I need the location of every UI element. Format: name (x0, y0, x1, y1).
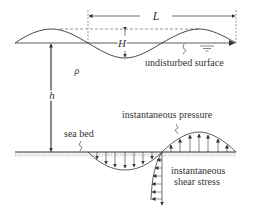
undisturbed-surface-leader (183, 44, 186, 54)
wavelength-label: L (152, 9, 160, 23)
sea-bed-leader (79, 141, 82, 151)
sea-bed (15, 152, 236, 157)
still-water-symbol (200, 46, 214, 51)
sea-bed-label: sea bed (64, 128, 94, 139)
density-label: ρ (74, 65, 80, 76)
instantaneous-shear-label-line1: instantaneous (171, 165, 226, 176)
pressure-leader (175, 124, 178, 134)
undisturbed-surface-label: undisturbed surface (145, 57, 224, 68)
wave-pressure-diagram: L H undisturbed surface ρ h sea bed (0, 0, 253, 223)
positive-pressure-distribution (162, 132, 236, 152)
instantaneous-pressure-label: instantaneous pressure (122, 109, 213, 120)
wave-height-label: H (117, 37, 127, 49)
depth-label: h (49, 89, 55, 101)
wavelength-dimension: L (88, 9, 236, 43)
instantaneous-shear-label-line2: shear stress (174, 176, 220, 187)
wave-height-dimension: H (117, 30, 127, 57)
